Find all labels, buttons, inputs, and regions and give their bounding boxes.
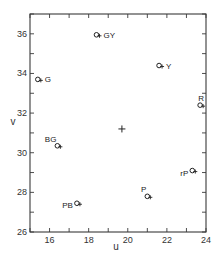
point-label: P: [141, 185, 146, 194]
data-points: GYGYRBGPBPrP: [36, 31, 206, 210]
circle-marker: [94, 33, 99, 38]
data-point-rp: rP: [180, 168, 197, 177]
y-tick-label: 28: [17, 187, 27, 197]
x-tick-label: 20: [123, 235, 133, 245]
point-label: Y: [166, 62, 172, 71]
data-point-r: R: [198, 94, 205, 108]
plot-axes: [30, 14, 206, 232]
x-tick-label: 24: [201, 235, 211, 245]
point-label: BG: [45, 135, 57, 144]
data-point-bg: BG: [45, 135, 63, 149]
data-point-gy: GY: [94, 31, 116, 40]
y-tick-label: 36: [17, 29, 27, 39]
x-axis-label: u: [113, 241, 119, 252]
circle-marker: [157, 63, 162, 68]
point-label: G: [45, 75, 51, 84]
point-label: PB: [62, 201, 73, 210]
x-tick-label: 18: [84, 235, 94, 245]
circle-marker: [36, 77, 41, 82]
circle-marker: [198, 103, 203, 108]
data-point-pb: PB: [62, 201, 82, 210]
point-label: GY: [103, 31, 115, 40]
point-label: rP: [180, 169, 188, 178]
circle-marker: [190, 168, 195, 173]
y-tick-label: 30: [17, 148, 27, 158]
point-label: R: [198, 94, 204, 103]
circle-marker: [55, 143, 60, 148]
plot-frame: [30, 14, 206, 232]
data-point-g: G: [36, 75, 52, 84]
circle-marker: [145, 194, 150, 199]
circle-marker: [75, 201, 80, 206]
y-tick-label: 26: [17, 227, 27, 237]
y-axis-label: v: [11, 116, 16, 127]
data-point-p: P: [141, 185, 152, 199]
y-tick-label: 34: [17, 68, 27, 78]
x-tick-label: 16: [45, 235, 55, 245]
y-tick-label: 32: [17, 108, 27, 118]
x-tick-label: 22: [162, 235, 172, 245]
axis-ticks: 1618202224262830323436: [17, 14, 211, 245]
data-point-y: Y: [157, 62, 172, 71]
scatter-chart: 1618202224262830323436 GYGYRBGPBPrP u v: [0, 0, 221, 262]
